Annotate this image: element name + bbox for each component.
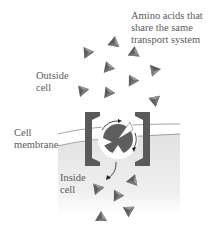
- cell-membrane-label: Cell membrane: [14, 127, 58, 151]
- outside-cell-label: Outside cell: [36, 70, 69, 94]
- label-line: cell: [60, 184, 86, 196]
- label-line: Cell: [14, 127, 58, 139]
- label-line: Inside: [60, 172, 86, 184]
- label-line: Outside: [36, 70, 69, 82]
- label-line: transport system: [131, 34, 203, 46]
- inside-cell-label: Inside cell: [60, 172, 86, 196]
- label-line: membrane: [14, 139, 58, 151]
- label-line: share the same: [131, 22, 203, 34]
- transport-diagram: Amino acids that share the same transpor…: [0, 0, 212, 235]
- amino-acids-label: Amino acids that share the same transpor…: [131, 10, 203, 46]
- label-line: Amino acids that: [131, 10, 203, 22]
- label-line: cell: [36, 82, 69, 94]
